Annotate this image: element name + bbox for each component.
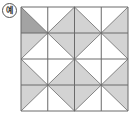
triangle-tiling-grid bbox=[0, 0, 132, 114]
